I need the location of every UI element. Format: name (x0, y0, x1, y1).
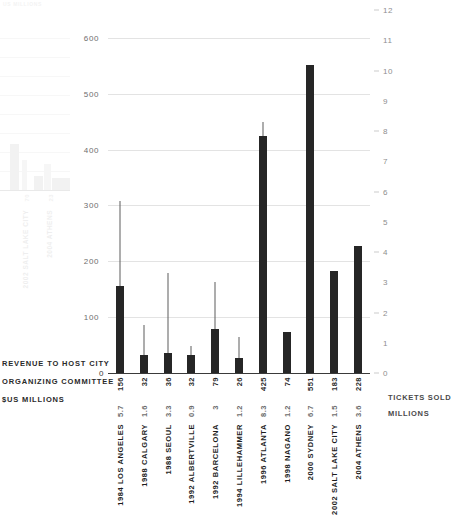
revenue-value-label: 74 (283, 377, 292, 386)
revenue-bar (164, 353, 172, 373)
ghost-baseline (0, 190, 70, 191)
right-axis-tick-label: 1 (383, 338, 388, 347)
ghost-bar (44, 164, 51, 190)
left-caption-line3: $US MILLIONS (2, 395, 65, 404)
tickets-value-label: 1.5 (330, 405, 339, 417)
revenue-value-label: 551 (306, 377, 315, 391)
right-axis-tick-label: 10 (383, 66, 393, 75)
left-caption-line1: REVENUE TO HOST CITY (2, 359, 110, 368)
left-axis-zero: 0 (99, 369, 103, 378)
bar-slot (133, 10, 155, 373)
revenue-bar (235, 358, 243, 373)
tickets-value-label: 6.7 (306, 405, 315, 417)
axis-baseline (108, 373, 370, 374)
ghost-gridline (0, 38, 70, 39)
category-label: 2004 ATHENS (354, 424, 363, 479)
revenue-bar (116, 286, 124, 373)
category-label: 1992 BARCELONA (211, 424, 220, 499)
tickets-value-label: 1.2 (283, 405, 292, 417)
right-caption-line1: TICKETS SOLD (388, 393, 451, 402)
revenue-bar (187, 355, 195, 373)
right-axis-tick-label: 5 (383, 217, 388, 226)
bar-slot (347, 10, 369, 373)
bar-slot (204, 10, 226, 373)
right-axis-tick-label: 4 (383, 248, 388, 257)
category-label: 1992 ALBERTVILLE (187, 424, 196, 504)
bar-slot (323, 10, 345, 373)
revenue-value-label: 425 (259, 377, 268, 391)
ghost-gridline (0, 114, 70, 115)
category-label: 1988 SEOUL (164, 424, 173, 475)
tickets-value-label: 5.7 (116, 405, 125, 417)
tickets-value-label: 0.9 (187, 405, 196, 417)
revenue-bar (140, 355, 148, 373)
category-label: 1984 LOS ANGELES (116, 424, 125, 506)
right-axis-tick-label: 8 (383, 127, 388, 136)
bar-slot (252, 10, 274, 373)
ghost-gridline (0, 95, 70, 96)
revenue-value-label: 79 (211, 377, 220, 386)
tickets-value-label: 3.6 (354, 405, 363, 417)
bar-slot (157, 10, 179, 373)
left-axis-tick-label: 400 (65, 145, 99, 154)
right-axis-tick-mark (374, 191, 379, 192)
category-label: 1996 ATLANTA (259, 424, 268, 484)
category-label: 2000 SYDNEY (306, 424, 315, 480)
right-axis-tick-label: 0 (383, 369, 388, 378)
ghost-bar (34, 176, 43, 190)
tickets-value-label: 3.3 (164, 405, 173, 417)
right-axis-tick-label: 6 (383, 187, 388, 196)
revenue-value-label: 228 (354, 377, 363, 391)
right-axis-tick-label: 7 (383, 157, 388, 166)
right-axis-tick-label: 9 (383, 96, 388, 105)
left-axis-tick-label: 200 (65, 257, 99, 266)
category-label: 2002 SALT LAKE CITY (330, 424, 339, 515)
revenue-value-label: 36 (164, 377, 173, 386)
ghost-title: US MILLIONS (3, 1, 42, 7)
left-caption-line2: ORGANIZING COMMITTEE (2, 377, 114, 386)
right-caption-line2: MILLIONS (388, 409, 429, 418)
category-label: 1998 NAGANO (283, 424, 292, 483)
ghost-value: 70 (24, 194, 30, 201)
bar-slot (276, 10, 298, 373)
tickets-value-label: 1.2 (235, 405, 244, 417)
ghost-bar (22, 160, 27, 190)
right-axis-tick-label: 11 (383, 36, 393, 45)
tickets-value-label: 3 (211, 405, 220, 410)
ghost-bar-group (0, 130, 70, 190)
ghost-gridline (0, 57, 70, 58)
revenue-value-label: 32 (187, 377, 196, 386)
revenue-bar (330, 271, 338, 373)
left-axis-tick-label: 300 (65, 201, 99, 210)
bar-slot (109, 10, 131, 373)
revenue-value-label: 183 (330, 377, 339, 391)
right-axis-tick-label: 2 (383, 308, 388, 317)
right-axis-tick-mark (374, 312, 379, 313)
left-axis-tick-label: 100 (65, 313, 99, 322)
right-axis-tick-label: 3 (383, 278, 388, 287)
right-axis-tick-label: 12 (383, 6, 393, 15)
ghost-gridline (0, 76, 70, 77)
revenue-bar (306, 65, 314, 373)
right-axis-tick-mark (374, 70, 379, 71)
left-axis-tick-label: 600 (65, 33, 99, 42)
plot-area: 600500400300200100 1211109876543210 (108, 10, 370, 373)
revenue-bar (259, 136, 267, 373)
category-label: 1994 LILLEHAMMER (235, 424, 244, 507)
right-axis-tick-mark (374, 373, 379, 374)
ghost-label: 2004 ATHENS (46, 210, 53, 258)
revenue-value-label: 26 (235, 377, 244, 386)
right-axis-tick-mark (374, 252, 379, 253)
category-label: 1988 CALGARY (140, 424, 149, 487)
revenue-bar (283, 332, 291, 373)
revenue-bar (211, 329, 219, 373)
bar-slot (299, 10, 321, 373)
tickets-value-label: 8.3 (259, 405, 268, 417)
left-axis-tick-label: 500 (65, 89, 99, 98)
revenue-value-label: 156 (116, 377, 125, 391)
ghost-value: 23 (48, 194, 54, 201)
right-axis-tick-mark (374, 131, 379, 132)
tickets-value-label: 1.6 (140, 405, 149, 417)
bar-slot (180, 10, 202, 373)
